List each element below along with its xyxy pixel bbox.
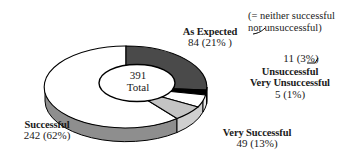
- donut-center-total-value: 391: [101, 70, 175, 82]
- slice-label-unsuccessful-value: 11 (3%): [268, 53, 334, 65]
- donut-center-total: 391 Total: [101, 70, 175, 93]
- annotation-neither-successful: (= neither successful nor unsuccessful): [248, 10, 359, 35]
- slice-label-very-successful-value: 49 (13%): [198, 138, 316, 150]
- slice-label-as-expected: As Expected 84 (21% ): [160, 26, 260, 49]
- slice-label-successful: Successful 242 (62%): [2, 119, 92, 142]
- slice-label-very-unsuccessful-name: Very Unsuccessful: [228, 77, 352, 88]
- slice-label-very-unsuccessful-value: 5 (1%): [228, 89, 352, 101]
- slice-label-successful-value: 242 (62%): [2, 130, 92, 142]
- slice-label-very-successful: Very Successful 49 (13%): [198, 127, 316, 150]
- slice-label-unsuccessful-group: Unsuccessful Very Unsuccessful 5 (1%): [228, 66, 352, 101]
- slice-label-as-expected-value: 84 (21% ): [160, 37, 260, 49]
- pie-chart: As Expected 84 (21% ) (= neither success…: [0, 0, 359, 166]
- annotation-line-1: (= neither successful: [248, 10, 359, 22]
- slice-label-unsuccessful-value-text: 11 (3%): [268, 53, 334, 65]
- annotation-line-2: nor unsuccessful): [248, 22, 359, 34]
- slice-label-unsuccessful-name: Unsuccessful: [228, 66, 352, 77]
- donut-center-total-caption: Total: [101, 82, 175, 94]
